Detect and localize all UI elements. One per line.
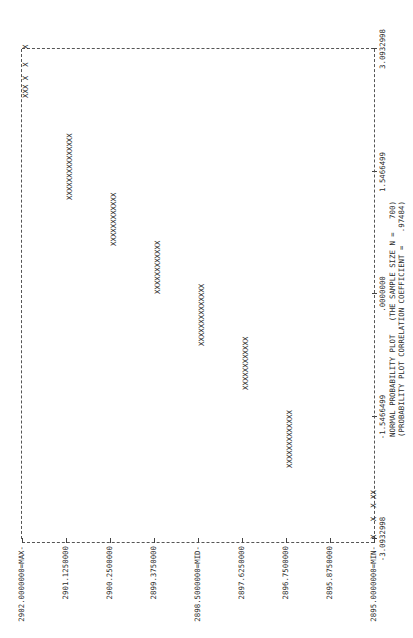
plot-caption-title: NORMAL PROBABILITY PLOT (THE SAMPLE SIZE… xyxy=(388,0,397,638)
x-tick-label: 1.5466499 xyxy=(378,152,387,192)
x-tick-mark xyxy=(372,416,377,417)
x-tick-label: .0000000 xyxy=(378,276,387,312)
probability-plot: 2902.0000000=MAX- 2901.1250000 2900.2500… xyxy=(0,0,413,638)
x-tick-mark xyxy=(372,293,377,294)
data-points-row: XXX X X X xyxy=(22,45,29,98)
plot-caption-ppcc: (PROBABILITY PLOT CORRELATION COEFFICIEN… xyxy=(397,0,406,638)
plot-frame-bottom xyxy=(374,49,375,539)
x-tick-label: 3.0932998 xyxy=(378,29,387,69)
x-tick-label: -1.5466499 xyxy=(378,395,387,440)
y-tick-label: 2895.8750000 xyxy=(326,546,334,634)
y-tick-mark xyxy=(66,538,67,543)
data-points-row: XXXXXXXXXXXXXX xyxy=(198,284,205,346)
data-points-row: X X X XX xyxy=(370,490,377,539)
y-tick-mark xyxy=(286,538,287,543)
y-tick-label-max: 2902.0000000=MAX- xyxy=(18,546,26,634)
y-tick-mark xyxy=(110,538,111,543)
y-tick-label-min: 2895.0000000=MIN- xyxy=(370,546,378,634)
y-tick-mark xyxy=(330,538,331,543)
y-tick-mark xyxy=(154,538,155,543)
y-tick-label: 2899.3750000 xyxy=(150,546,158,634)
x-tick-mark xyxy=(372,171,377,172)
y-tick-label: 2897.6250000 xyxy=(238,546,246,634)
data-points-row: XXXXXXXXXXXX xyxy=(110,193,117,246)
y-tick-label: 2900.2500000 xyxy=(106,546,114,634)
plot-frame-top xyxy=(21,49,23,539)
y-tick-label: 2896.7500000 xyxy=(282,546,290,634)
y-tick-mark xyxy=(198,538,199,543)
data-points-row: XXXXXXXXXXXX xyxy=(242,337,249,390)
data-points-row: XXXXXXXXXXXXXXX xyxy=(66,133,73,200)
y-tick-mark xyxy=(22,538,23,543)
y-tick-label-mid: 2898.5000000=MID- xyxy=(194,546,202,634)
y-tick-label: 2901.1250000 xyxy=(62,546,70,634)
x-tick-mark xyxy=(372,48,377,49)
data-points-row: XXXXXXXXXXXXX xyxy=(286,410,293,468)
data-points-row: XXXXXXXXXXXX xyxy=(154,241,161,294)
x-tick-label: -3.0932998 xyxy=(378,517,387,562)
plot-frame-right xyxy=(22,48,374,49)
y-tick-mark xyxy=(242,538,243,543)
